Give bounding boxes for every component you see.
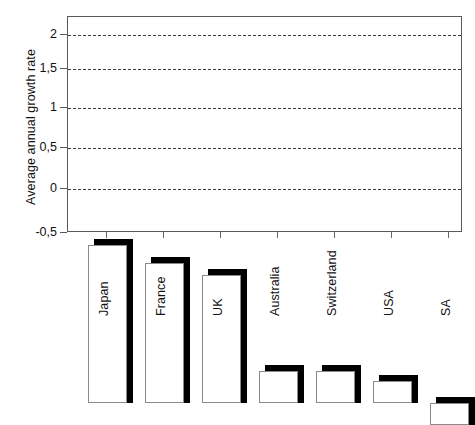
x-label-usa: USA [382, 290, 396, 316]
y-tick-label: 0,5 [40, 139, 57, 155]
x-label-japan: Japan [97, 281, 111, 316]
gridline-1-5 [68, 69, 461, 70]
gridline-zero [68, 189, 461, 190]
x-tick-mark [163, 232, 164, 238]
x-label-switzerland: Switzerland [325, 250, 339, 316]
y-tick-mark [60, 147, 67, 148]
y-tick-label: 1,5 [40, 60, 57, 76]
y-tick-0: 0 [0, 180, 67, 196]
y-tick-1: 1 [0, 99, 67, 115]
y-tick-mark [60, 107, 67, 108]
x-label-uk: UK [211, 298, 225, 316]
x-tick-mark [448, 232, 449, 238]
y-tick-mark [60, 68, 67, 69]
y-tick-neg-0-5: -0,5 [0, 224, 67, 240]
y-tick-mark [60, 34, 67, 35]
y-tick-mark [60, 188, 67, 189]
y-tick-0-5: 0,5 [0, 139, 67, 155]
y-tick-label: -0,5 [35, 224, 57, 240]
x-label-france: France [154, 276, 168, 316]
x-tick-mark [106, 232, 107, 238]
bar-face [316, 371, 355, 403]
y-tick-1-5: 1,5 [0, 60, 67, 76]
plot-area [67, 16, 462, 232]
y-tick-label: 2 [50, 26, 57, 42]
y-tick-label: 0 [50, 180, 57, 196]
bar-face [373, 381, 412, 403]
x-tick-mark [334, 232, 335, 238]
x-label-sa: SA [439, 299, 453, 316]
x-tick-mark [391, 232, 392, 238]
y-tick-label: 1 [50, 99, 57, 115]
y-tick-mark [60, 232, 67, 233]
y-tick-2: 2 [0, 26, 67, 42]
bar-face [259, 371, 298, 403]
gridline-1 [68, 108, 461, 109]
bar-face [430, 403, 469, 425]
x-tick-mark [220, 232, 221, 238]
bar-face [88, 245, 127, 403]
x-tick-mark [277, 232, 278, 238]
gridline-0-5 [68, 148, 461, 149]
x-label-australia: Australia [268, 266, 282, 316]
gridline-2 [68, 35, 461, 36]
bar-face [202, 275, 241, 403]
